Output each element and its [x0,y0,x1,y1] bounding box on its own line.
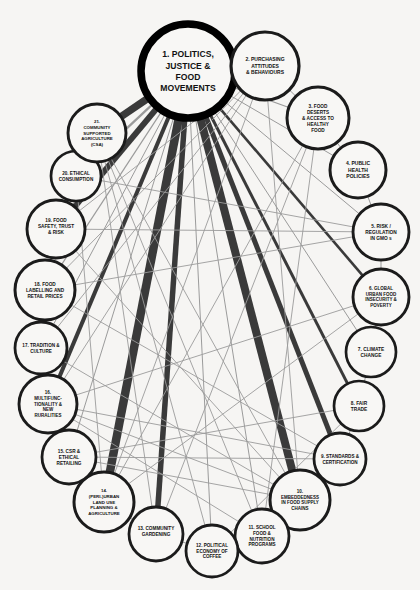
node-17[interactable]: 17. TRADITION &CULTURE [15,322,67,374]
node-21[interactable]: 21.COMMUNITYSUPPORTEDAGRICULTURE(CSA) [68,104,126,162]
node-1[interactable]: 1. POLITICS,JUSTICE &FOODMOVEMENTS [141,24,235,118]
node-circle[interactable] [314,433,366,485]
node-circle[interactable] [346,327,396,377]
node-circle[interactable] [353,204,409,260]
node-circle[interactable] [330,142,386,198]
node-7[interactable]: 7. CLIMATECHANGE [346,327,396,377]
node-circle[interactable] [231,32,299,100]
node-circle[interactable] [15,322,67,374]
node-18[interactable]: 18. FOODLABELLING ANDRETAIL PRICES [15,260,75,320]
edge-1-10 [199,115,292,472]
node-2[interactable]: 2. PURCHASINGATTITUDES& BEHAVIOURS [231,32,299,100]
node-4[interactable]: 4. PUBLICHEALTHPOLICIES [330,142,386,198]
node-circle[interactable] [235,509,289,563]
edge-18-9 [70,304,319,447]
node-9[interactable]: 9. STANDARDS &CERTIFICATION [314,433,366,485]
node-16[interactable]: 16.MULTIFUNC-TIONALITY &NEWRURALITIES [19,375,77,433]
node-circle[interactable] [68,104,126,162]
node-circle[interactable] [129,507,183,561]
edge-9-15 [94,457,315,459]
node-circle[interactable] [15,260,75,320]
node-circle[interactable] [334,381,384,431]
node-circle[interactable] [19,375,77,433]
node-19[interactable]: 19. FOODSAFETY, TRUST& RISK [27,200,85,258]
node-13[interactable]: 13. COMMUNITYGARDENING [129,507,183,561]
edge-1-14 [109,116,179,474]
node-15[interactable]: 15. CSR &ETHICALRETAILING [42,430,96,484]
node-6[interactable]: 6. GLOBALURBAN FOODINSECURITY &POVERTY [353,269,409,325]
edge-12-21 [104,160,205,528]
hub-node-circle[interactable] [141,24,235,118]
node-circle[interactable] [42,430,96,484]
node-circle[interactable] [353,269,409,325]
network-graph: 1. POLITICS,JUSTICE &FOODMOVEMENTS2. PUR… [0,0,420,590]
node-circle[interactable] [186,525,238,577]
node-3[interactable]: 3. FOODDESERTS& ACCESS TOHEALTHYFOOD [287,87,349,149]
node-12[interactable]: 12. POLITICALECONOMY OFCOFFEE [186,525,238,577]
edge-1-21 [120,97,151,118]
node-circle[interactable] [287,87,349,149]
edge-19-10 [74,249,281,478]
node-8[interactable]: 8. FAIRTRADE [334,381,384,431]
node-circle[interactable] [27,200,85,258]
node-11[interactable]: 11. SCHOOLFOOD &NUTRITIONPROGRAMS [235,509,289,563]
network-diagram-canvas: 1. POLITICS,JUSTICE &FOODMOVEMENTS2. PUR… [0,0,420,590]
node-layer: 1. POLITICS,JUSTICE &FOODMOVEMENTS2. PUR… [15,24,409,577]
node-5[interactable]: 5. RISK /REGULATIONIN GMO s [353,204,409,260]
